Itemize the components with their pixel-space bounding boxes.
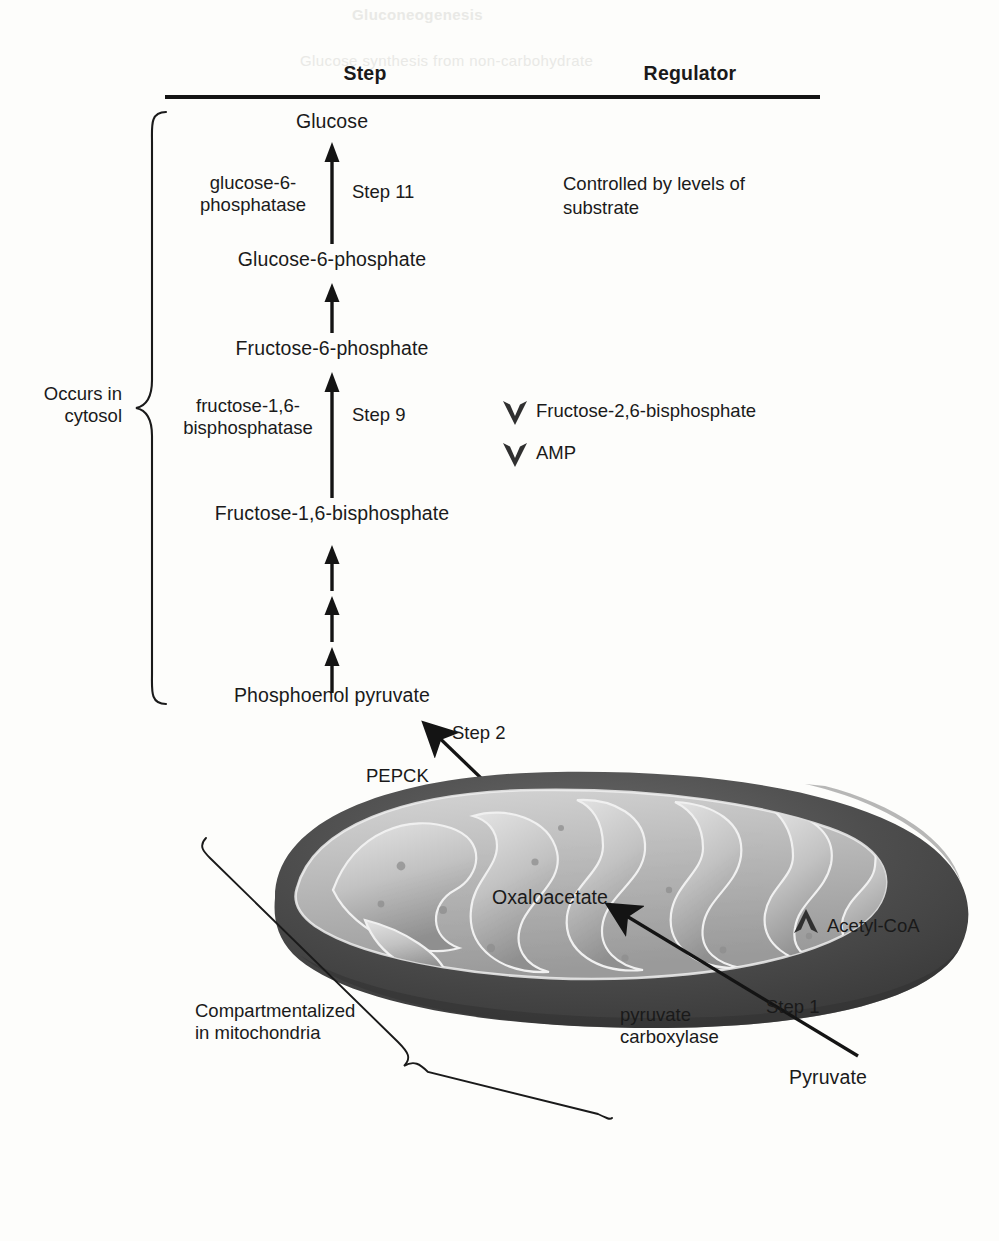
column-header-regulator: Regulator xyxy=(580,62,800,85)
step-label-1: Step 1 xyxy=(766,996,820,1018)
reaction-arrow-multistep-b xyxy=(319,594,345,642)
metabolite-fructose-6-phosphate: Fructose-6-phosphate xyxy=(236,337,429,360)
metabolite-fructose-1-6-bisphosphate: Fructose-1,6-bisphosphate xyxy=(215,502,449,525)
reaction-arrow-step-9 xyxy=(319,370,345,498)
regulator-note-substrate: Controlled by levels of substrate xyxy=(563,172,745,219)
enzyme-glucose-6-phosphatase: glucose-6- phosphatase xyxy=(200,172,306,216)
mitochondria-brace xyxy=(182,826,622,1126)
metabolite-pyruvate: Pyruvate xyxy=(789,1066,867,1089)
cytosol-label: Occurs in cytosol xyxy=(10,383,122,427)
enzyme-pyruvate-carboxylase: pyruvate carboxylase xyxy=(620,1004,719,1048)
cytosol-label-line1: Occurs in xyxy=(10,383,122,405)
step-label-2: Step 2 xyxy=(452,722,506,744)
reaction-arrow-f6p-to-g6p xyxy=(319,281,345,333)
pyruvate-carboxylase-line2: carboxylase xyxy=(620,1026,719,1048)
cytosol-brace xyxy=(130,108,174,708)
enzyme-g6pase-line2: phosphatase xyxy=(200,194,306,216)
reaction-arrow-multistep-a xyxy=(319,543,345,591)
chevron-down-icon xyxy=(500,398,530,428)
regulator-amp: AMP xyxy=(536,442,576,464)
chevron-down-icon xyxy=(500,440,530,470)
step-label-11: Step 11 xyxy=(352,181,414,203)
enzyme-fbpase-line1: fructose-1,6- xyxy=(183,395,313,417)
reaction-arrow-step-11 xyxy=(319,140,345,244)
cytosol-label-line2: cytosol xyxy=(10,405,122,427)
metabolite-glucose-6-phosphate: Glucose-6-phosphate xyxy=(238,248,426,271)
regulator-fructose-2-6-bisphosphate: Fructose-2,6-bisphosphate xyxy=(536,400,756,422)
enzyme-g6pase-line1: glucose-6- xyxy=(200,172,306,194)
step-label-9: Step 9 xyxy=(352,404,406,426)
header-divider-rule xyxy=(165,95,820,99)
column-header-step: Step xyxy=(285,62,445,85)
regulator-note-line1: Controlled by levels of xyxy=(563,172,745,196)
mitochondria-label: Compartmentalized in mitochondria xyxy=(195,1000,355,1044)
figure-canvas: Gluconeogenesis Glucose synthesis from n… xyxy=(0,0,999,1241)
pyruvate-carboxylase-line1: pyruvate xyxy=(620,1004,719,1026)
metabolite-glucose: Glucose xyxy=(296,110,368,133)
mitochondria-label-line2: in mitochondria xyxy=(195,1022,355,1044)
mitochondria-label-line1: Compartmentalized xyxy=(195,1000,355,1022)
enzyme-fbpase-line2: bisphosphatase xyxy=(183,417,313,439)
ghost-text-top: Gluconeogenesis xyxy=(352,6,483,23)
enzyme-fructose-1-6-bisphosphatase: fructose-1,6- bisphosphatase xyxy=(183,395,313,439)
reaction-arrow-multistep-c xyxy=(319,645,345,693)
regulator-note-line2: substrate xyxy=(563,196,745,220)
